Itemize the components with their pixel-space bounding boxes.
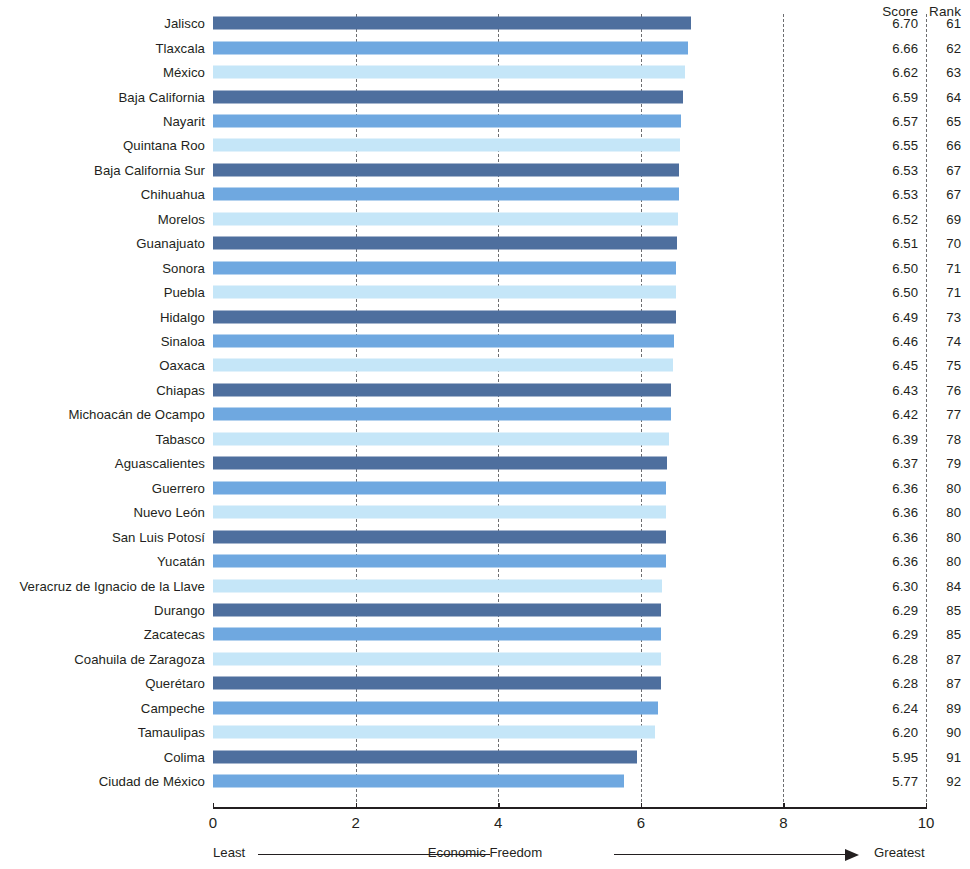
state-label: Zacatecas: [0, 627, 205, 642]
rank-value: 64: [927, 89, 961, 104]
state-label: Coahuila de Zaragoza: [0, 651, 205, 666]
bar-row: Guerrero6.3680: [0, 476, 970, 500]
score-value: 6.62: [872, 65, 918, 80]
rank-value: 79: [927, 456, 961, 471]
bar-row: México6.6263: [0, 60, 970, 84]
state-label: San Luis Potosí: [0, 529, 205, 544]
bar-row: Tabasco6.3978: [0, 427, 970, 451]
bar-row: Sinaloa6.4674: [0, 329, 970, 353]
rank-value: 69: [927, 211, 961, 226]
state-label: Hidalgo: [0, 309, 205, 324]
rank-value: 61: [927, 16, 961, 31]
state-label: Aguascalientes: [0, 456, 205, 471]
axis-tick-label-0: 0: [183, 814, 243, 831]
bar-row: Michoacán de Ocampo6.4277: [0, 402, 970, 426]
score-value: 6.37: [872, 456, 918, 471]
bar: [213, 359, 673, 372]
rank-value: 66: [927, 138, 961, 153]
state-label: Sinaloa: [0, 334, 205, 349]
x-axis-line: [213, 807, 926, 809]
bar-row: Campeche6.2489: [0, 696, 970, 720]
state-label: Nuevo León: [0, 505, 205, 520]
bar-row: Oaxaca6.4575: [0, 353, 970, 377]
score-value: 6.46: [872, 334, 918, 349]
axis-caption: Least Economic Freedom Greatest: [0, 845, 970, 869]
axis-tick-2: [356, 803, 357, 809]
axis-tick-0: [213, 803, 214, 809]
score-value: 6.70: [872, 16, 918, 31]
rank-value: 87: [927, 651, 961, 666]
rank-value: 78: [927, 431, 961, 446]
score-value: 6.49: [872, 309, 918, 324]
score-value: 6.53: [872, 187, 918, 202]
state-label: Durango: [0, 602, 205, 617]
score-value: 6.28: [872, 651, 918, 666]
state-label: Guanajuato: [0, 236, 205, 251]
bar-row: Puebla6.5071: [0, 280, 970, 304]
bar: [213, 335, 674, 348]
bar: [213, 139, 680, 152]
score-value: 6.30: [872, 578, 918, 593]
bar-row: Sonora6.5071: [0, 256, 970, 280]
score-value: 6.50: [872, 285, 918, 300]
state-label: Baja California: [0, 89, 205, 104]
axis-title: Economic Freedom: [0, 845, 970, 860]
bar: [213, 261, 676, 274]
bar: [213, 408, 671, 421]
score-value: 6.45: [872, 358, 918, 373]
bar: [213, 310, 676, 323]
economic-freedom-bar-chart: Score Rank Jalisco6.7061Tlaxcala6.6662Mé…: [0, 0, 970, 869]
bar: [213, 555, 666, 568]
arrow-right-icon: [845, 849, 859, 861]
bar: [213, 701, 658, 714]
rank-value: 85: [927, 602, 961, 617]
score-value: 5.77: [872, 774, 918, 789]
bar: [213, 603, 661, 616]
bar-row: Colima5.9591: [0, 745, 970, 769]
bar: [213, 17, 691, 30]
bar-row: Baja California6.5964: [0, 84, 970, 108]
bar-row: Tamaulipas6.2090: [0, 720, 970, 744]
bar: [213, 750, 637, 763]
rank-value: 80: [927, 529, 961, 544]
rank-value: 80: [927, 554, 961, 569]
rank-value: 65: [927, 113, 961, 128]
state-label: Yucatán: [0, 554, 205, 569]
bar: [213, 188, 679, 201]
bar-row: Aguascalientes6.3779: [0, 451, 970, 475]
bar-row: Baja California Sur6.5367: [0, 158, 970, 182]
caption-rule-right: [614, 854, 846, 855]
bar-row: Zacatecas6.2985: [0, 622, 970, 646]
rank-value: 84: [927, 578, 961, 593]
score-value: 6.57: [872, 113, 918, 128]
score-value: 6.24: [872, 700, 918, 715]
bar: [213, 628, 661, 641]
rank-value: 73: [927, 309, 961, 324]
state-label: Oaxaca: [0, 358, 205, 373]
state-label: Morelos: [0, 211, 205, 226]
bar: [213, 726, 655, 739]
bar-row: Ciudad de México5.7792: [0, 769, 970, 793]
score-value: 6.36: [872, 480, 918, 495]
rank-value: 77: [927, 407, 961, 422]
state-label: Quintana Roo: [0, 138, 205, 153]
state-label: Chihuahua: [0, 187, 205, 202]
rank-value: 87: [927, 676, 961, 691]
bar: [213, 66, 685, 79]
bar-row: Yucatán6.3680: [0, 549, 970, 573]
bar-row: San Luis Potosí6.3680: [0, 524, 970, 548]
score-value: 6.39: [872, 431, 918, 446]
rank-value: 85: [927, 627, 961, 642]
bar: [213, 677, 661, 690]
state-label: Campeche: [0, 700, 205, 715]
bar: [213, 90, 683, 103]
score-value: 6.29: [872, 602, 918, 617]
bar-row: Durango6.2985: [0, 598, 970, 622]
axis-tick-label-6: 6: [611, 814, 671, 831]
axis-tick-6: [641, 803, 642, 809]
score-value: 6.36: [872, 529, 918, 544]
axis-tick-10: [926, 803, 927, 809]
bar-row: Morelos6.5269: [0, 207, 970, 231]
state-label: Veracruz de Ignacio de la Llave: [0, 578, 205, 593]
state-label: Puebla: [0, 285, 205, 300]
